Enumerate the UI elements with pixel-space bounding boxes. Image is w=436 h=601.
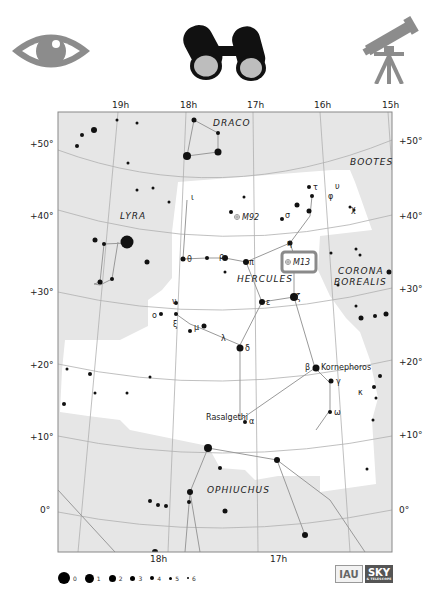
label-lyra: LYRA <box>120 211 146 221</box>
dec-left-0: 0° <box>40 505 50 515</box>
greek-pi: π <box>249 258 254 267</box>
label-m13[interactable]: M13 <box>293 258 310 267</box>
iau-logo: IAU <box>335 565 363 583</box>
greek-beta: β <box>305 363 310 372</box>
sky-logo-subtext: & TELESCOPE <box>366 578 391 581</box>
magnitude-legend: 0 1 2 3 4 5 6 <box>58 568 196 588</box>
greek-delta: δ <box>245 344 250 353</box>
ra-label-19h: 19h <box>112 100 129 110</box>
greek-theta: θ <box>187 255 192 264</box>
star-chart: 19h 18h 17h 16h 15h <box>0 0 436 601</box>
legend-mag-5: 5 <box>169 575 179 582</box>
label-kornephoros: Kornephoros <box>321 363 371 372</box>
label-m92[interactable]: M92 <box>242 213 259 222</box>
label-draco: DRACO <box>213 118 251 128</box>
sky-logo-text: SKY <box>368 568 390 578</box>
greek-epsilon: ε <box>266 298 270 307</box>
dec-left-30: +30° <box>30 287 54 297</box>
greek-nu: ν <box>172 297 177 306</box>
dec-right-10: +10° <box>399 430 423 440</box>
label-ophiuchus: OPHIUCHUS <box>207 485 270 495</box>
greek-omega: ω <box>334 408 341 417</box>
greek-phi: φ <box>328 192 333 201</box>
dec-left-10: +10° <box>30 432 54 442</box>
ra-label-15h: 15h <box>382 100 399 110</box>
label-corona-2: BOREALIS <box>334 277 387 287</box>
sky-telescope-logo: SKY & TELESCOPE <box>365 565 393 583</box>
ra-label-17h: 17h <box>247 100 264 110</box>
dec-right-40: +40° <box>399 211 423 221</box>
dec-right-20: +20° <box>399 357 423 367</box>
greek-tau: τ <box>313 183 318 192</box>
greek-upsilon: υ <box>335 182 340 191</box>
greek-gamma: γ <box>336 377 341 386</box>
label-hercules: HERCULES <box>237 274 293 284</box>
greek-mu: μ <box>194 323 199 332</box>
greek-iota: ι <box>191 193 194 202</box>
greek-chi: χ <box>351 205 356 214</box>
dec-right-50: +50° <box>399 136 423 146</box>
dec-left-50: +50° <box>30 139 54 149</box>
legend-mag-0: 0 <box>58 572 77 584</box>
label-bootes: BOOTES <box>350 157 393 167</box>
label-rasalgethi: Rasalgethi <box>206 413 248 422</box>
greek-eta: η <box>287 239 292 248</box>
publisher-logos: IAU SKY & TELESCOPE <box>335 565 393 583</box>
legend-mag-4: 4 <box>150 575 161 582</box>
ra-label-18h: 18h <box>180 100 197 110</box>
dec-right-0: 0° <box>399 505 409 515</box>
dec-left-40: +40° <box>30 211 54 221</box>
dec-left-20: +20° <box>30 360 54 370</box>
greek-rho: ρ <box>219 252 224 261</box>
ra-bottom-17h: 17h <box>270 554 287 564</box>
greek-lambda: λ <box>221 334 226 343</box>
greek-xi: ξ <box>173 320 177 329</box>
legend-mag-1: 1 <box>85 574 101 583</box>
greek-sigma: σ <box>285 211 290 220</box>
greek-omicron: ο <box>152 311 157 320</box>
greek-alpha: α <box>249 417 254 426</box>
greek-kappa: κ <box>358 388 363 397</box>
legend-mag-6: 6 <box>187 575 196 582</box>
legend-mag-3: 3 <box>130 575 142 582</box>
ra-label-16h: 16h <box>314 100 331 110</box>
dec-right-30: +30° <box>399 284 423 294</box>
legend-mag-2: 2 <box>109 575 123 582</box>
greek-zeta: ζ <box>296 293 300 302</box>
label-corona-1: CORONA <box>338 266 384 276</box>
ra-bottom-18h: 18h <box>150 554 167 564</box>
